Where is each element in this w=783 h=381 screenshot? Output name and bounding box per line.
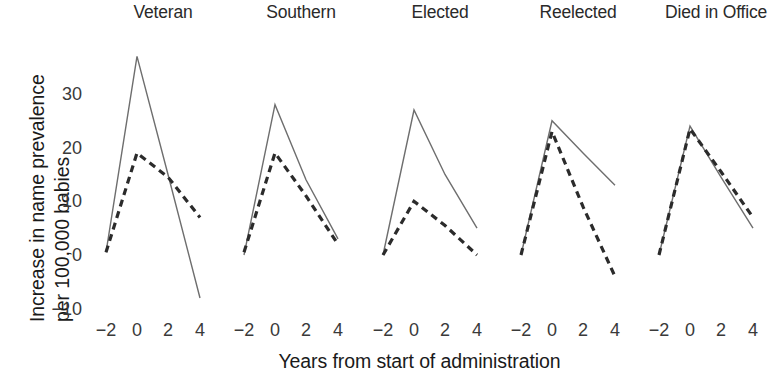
x-tick-label: 2 <box>163 320 173 341</box>
series-line-dashed <box>521 131 615 276</box>
chart-figure: Increase in name prevalence per 100,000 … <box>0 0 783 381</box>
chart-panel: Veteran−2024 <box>96 0 230 381</box>
series-line-dashed <box>659 129 753 255</box>
x-tick-label: 0 <box>270 320 280 341</box>
y-tick-label: 10 <box>36 191 82 212</box>
y-axis-tick-labels: 3020100−10 <box>12 0 82 381</box>
x-tick-label: −2 <box>234 320 255 341</box>
x-tick-label: 4 <box>610 320 620 341</box>
x-tick-label: 0 <box>685 320 695 341</box>
x-axis-title: Years from start of administration <box>0 350 783 373</box>
series-line-solid <box>244 105 338 255</box>
series-line-dashed <box>383 201 477 255</box>
x-tick-label: 4 <box>333 320 343 341</box>
x-tick-label: 0 <box>409 320 419 341</box>
y-tick-label: −10 <box>36 298 82 319</box>
x-tick-label: −2 <box>649 320 670 341</box>
x-tick-label: 4 <box>472 320 482 341</box>
x-tick-label: −2 <box>373 320 394 341</box>
x-tick-label: 0 <box>547 320 557 341</box>
series-line-dashed <box>106 153 200 252</box>
x-tick-label: 0 <box>132 320 142 341</box>
x-tick-label: 4 <box>748 320 758 341</box>
y-tick-label: 0 <box>36 245 82 266</box>
x-tick-label: 2 <box>578 320 588 341</box>
x-tick-label: −2 <box>511 320 532 341</box>
series-line-solid <box>659 126 753 255</box>
x-tick-label: 2 <box>440 320 450 341</box>
y-tick-label: 30 <box>36 83 82 104</box>
series-line-dashed <box>244 153 338 252</box>
chart-panel: Southern−2024 <box>234 0 368 381</box>
x-tick-label: −2 <box>96 320 117 341</box>
y-tick-label: 20 <box>36 137 82 158</box>
series-line-solid <box>106 56 200 298</box>
chart-panel: Elected−2024 <box>373 0 507 381</box>
chart-panel: Reelected−2024 <box>511 0 645 381</box>
x-axis-title-text: Years from start of administration <box>223 350 561 372</box>
series-line-solid <box>521 121 615 255</box>
x-tick-label: 2 <box>716 320 726 341</box>
x-tick-label: 2 <box>301 320 311 341</box>
x-tick-label: 4 <box>195 320 205 341</box>
chart-panel: Died in Office−2024 <box>649 0 783 381</box>
